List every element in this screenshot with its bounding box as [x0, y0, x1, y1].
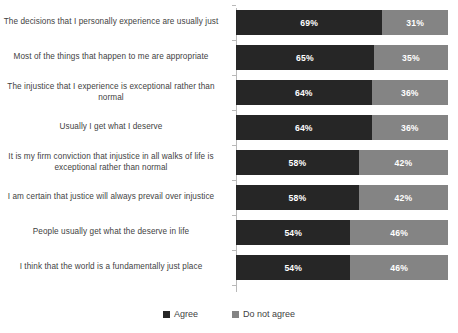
bar-value-label: 54%: [284, 228, 302, 238]
bar-segment-agree: 64%: [236, 115, 372, 140]
bar-segment-do-not-agree: 46%: [350, 255, 448, 280]
bar-value-label: 42%: [395, 193, 413, 203]
bar-value-label: 42%: [395, 158, 413, 168]
bar-segment-do-not-agree: 46%: [350, 220, 448, 245]
bar-track: 58%42%: [236, 185, 448, 210]
bar-segment-agree: 58%: [236, 185, 359, 210]
legend-item[interactable]: Do not agree: [232, 309, 295, 319]
bar-value-label: 69%: [300, 18, 318, 28]
axis-tick: [232, 180, 236, 181]
bar-segment-do-not-agree: 42%: [359, 150, 448, 175]
bar-segment-agree: 64%: [236, 80, 372, 105]
axis-tick: [232, 40, 236, 41]
stacked-bar-chart: The decisions that I personally experien…: [0, 0, 458, 333]
bar-track: 64%36%: [236, 80, 448, 105]
bar-row: It is my firm conviction that injustice …: [0, 150, 458, 175]
bar-track: 58%42%: [236, 150, 448, 175]
bar-value-label: 46%: [390, 263, 408, 273]
bar-value-label: 35%: [402, 53, 420, 63]
bar-segment-agree: 65%: [236, 45, 374, 70]
bar-row: Usually I get what I deserve64%36%: [0, 115, 458, 140]
chart-legend: AgreeDo not agree: [0, 306, 458, 322]
bar-value-label: 58%: [289, 158, 307, 168]
bar-row: I think that the world is a fundamentall…: [0, 255, 458, 280]
legend-label: Do not agree: [243, 309, 295, 319]
axis-tick: [232, 5, 236, 6]
legend-item[interactable]: Agree: [163, 309, 198, 319]
bar-track: 69%31%: [236, 10, 448, 35]
axis-tick: [232, 250, 236, 251]
bar-row: The decisions that I personally experien…: [0, 10, 458, 35]
category-label: People usually get what the deserve in l…: [0, 227, 228, 238]
legend-swatch-icon: [163, 311, 170, 318]
bar-segment-do-not-agree: 35%: [374, 45, 448, 70]
bar-value-label: 65%: [296, 53, 314, 63]
bar-track: 64%36%: [236, 115, 448, 140]
category-label: It is my firm conviction that injustice …: [0, 152, 228, 173]
legend-label: Agree: [174, 309, 198, 319]
bar-row: People usually get what the deserve in l…: [0, 220, 458, 245]
bar-value-label: 58%: [289, 193, 307, 203]
bar-segment-agree: 69%: [236, 10, 382, 35]
axis-tick: [232, 285, 236, 286]
bar-segment-do-not-agree: 36%: [372, 115, 448, 140]
axis-tick: [232, 110, 236, 111]
bar-value-label: 46%: [390, 228, 408, 238]
bar-segment-agree: 54%: [236, 255, 350, 280]
bar-track: 65%35%: [236, 45, 448, 70]
category-label: Most of the things that happen to me are…: [0, 52, 228, 63]
category-label: Usually I get what I deserve: [0, 122, 228, 133]
axis-tick: [232, 75, 236, 76]
bar-value-label: 31%: [406, 18, 424, 28]
category-label: The injustice that I experience is excep…: [0, 82, 228, 103]
legend-swatch-icon: [232, 311, 239, 318]
bar-value-label: 36%: [401, 88, 419, 98]
category-label: I am certain that justice will always pr…: [0, 192, 228, 203]
bar-value-label: 64%: [295, 88, 313, 98]
bar-segment-do-not-agree: 36%: [372, 80, 448, 105]
bar-segment-do-not-agree: 42%: [359, 185, 448, 210]
bar-value-label: 36%: [401, 123, 419, 133]
bar-value-label: 54%: [284, 263, 302, 273]
bar-segment-agree: 54%: [236, 220, 350, 245]
bar-track: 54%46%: [236, 220, 448, 245]
bar-segment-agree: 58%: [236, 150, 359, 175]
bar-value-label: 64%: [295, 123, 313, 133]
bar-track: 54%46%: [236, 255, 448, 280]
category-label: The decisions that I personally experien…: [0, 17, 228, 28]
category-label: I think that the world is a fundamentall…: [0, 262, 228, 273]
axis-tick: [232, 145, 236, 146]
plot-area: The decisions that I personally experien…: [0, 0, 458, 300]
bar-row: The injustice that I experience is excep…: [0, 80, 458, 105]
bar-segment-do-not-agree: 31%: [382, 10, 448, 35]
bar-row: Most of the things that happen to me are…: [0, 45, 458, 70]
axis-tick: [232, 215, 236, 216]
bar-row: I am certain that justice will always pr…: [0, 185, 458, 210]
